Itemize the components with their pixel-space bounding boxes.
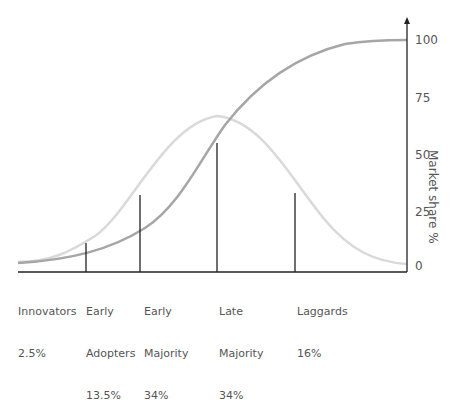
label-early-adopters-name2: Adopters (86, 347, 135, 361)
label-innovators: Innovators 2.5% (18, 277, 76, 375)
bell-curve (18, 116, 407, 264)
label-early-majority-share: 34% (144, 389, 188, 403)
label-laggards-name: Laggards (297, 305, 348, 319)
y-tick-75: 75 (415, 91, 430, 105)
label-early-majority-name2: Majority (144, 347, 188, 361)
y-axis-arrow-icon (404, 17, 410, 24)
label-late-majority-name1: Late (219, 305, 263, 319)
label-late-majority: Late Majority 34% (219, 277, 263, 403)
label-late-majority-name2: Majority (219, 347, 263, 361)
label-early-adopters: Early Adopters 13.5% (86, 277, 135, 403)
label-late-majority-share: 34% (219, 389, 263, 403)
y-axis-label: Market share % (426, 150, 440, 244)
label-early-adopters-name1: Early (86, 305, 135, 319)
label-innovators-name: Innovators (18, 305, 76, 319)
label-early-adopters-share: 13.5% (86, 389, 135, 403)
y-tick-0: 0 (415, 259, 423, 273)
label-laggards: Laggards 16% (297, 277, 348, 375)
y-tick-100: 100 (415, 33, 438, 47)
label-early-majority-name1: Early (144, 305, 188, 319)
label-early-majority: Early Majority 34% (144, 277, 188, 403)
label-innovators-share: 2.5% (18, 347, 76, 361)
label-laggards-share: 16% (297, 347, 348, 361)
s-curve (18, 40, 407, 263)
